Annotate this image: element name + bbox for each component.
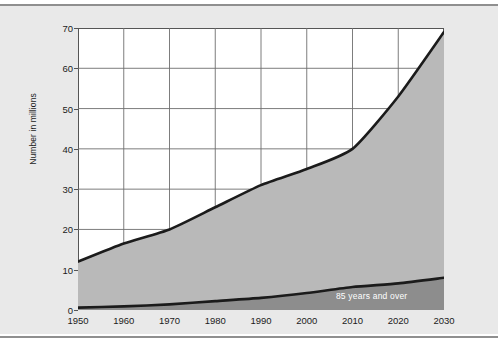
y-tick-mark	[74, 68, 78, 69]
y-tick-mark	[74, 310, 78, 311]
y-tick-mark	[74, 189, 78, 190]
x-tick-label: 1980	[205, 315, 226, 326]
top-rule	[0, 4, 498, 6]
x-tick-label: 1950	[67, 315, 88, 326]
x-tick-label: 1990	[250, 315, 271, 326]
y-tick-mark	[74, 109, 78, 110]
y-tick-mark	[74, 28, 78, 29]
x-tick-label: 2010	[342, 315, 363, 326]
x-tick-label: 2000	[296, 315, 317, 326]
y-tick-label: 60	[62, 63, 73, 74]
y-tick-mark	[74, 270, 78, 271]
series-label-85-and-over: 85 years and over	[336, 291, 407, 301]
chart-svg	[78, 28, 444, 310]
plot-container: Number in millions 010203040506070 19501…	[78, 28, 444, 310]
y-tick-label: 70	[62, 23, 73, 34]
y-tick-label: 40	[62, 143, 73, 154]
x-tick-label: 2030	[433, 315, 454, 326]
y-tick-label: 50	[62, 103, 73, 114]
x-tick-label: 1970	[159, 315, 180, 326]
bottom-rule	[0, 336, 498, 338]
y-tick-label: 10	[62, 264, 73, 275]
x-tick-label: 1960	[113, 315, 134, 326]
y-tick-mark	[74, 149, 78, 150]
y-tick-label: 30	[62, 184, 73, 195]
y-tick-label: 0	[68, 305, 73, 316]
y-axis-title: Number in millions	[28, 54, 38, 204]
y-tick-mark	[74, 229, 78, 230]
chart-page: Number in millions 010203040506070 19501…	[0, 0, 498, 364]
x-tick-label: 2020	[388, 315, 409, 326]
y-tick-label: 20	[62, 224, 73, 235]
